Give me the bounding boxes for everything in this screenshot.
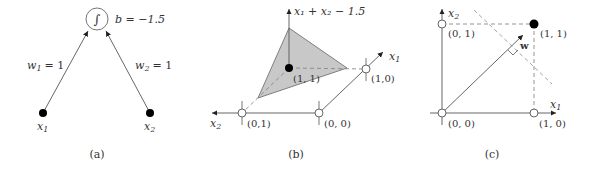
bias-label: b = −1.5 — [115, 13, 165, 26]
point-11-label: (1, 1) — [540, 28, 567, 39]
point-10-label: (1,0) — [371, 73, 395, 84]
edge-w2 — [106, 31, 150, 113]
point-00 — [315, 109, 323, 117]
caption-a: (a) — [89, 148, 104, 161]
panel-c: x1 x2 w (0, 1) (1, 1) (0, 0) (1, 0) (c) — [430, 7, 567, 161]
point-00-label: (0, 0) — [448, 118, 475, 129]
weight-w1-label: w1= 1 — [27, 59, 64, 73]
decision-boundary — [474, 10, 552, 84]
activation-plane — [258, 28, 347, 98]
input-node-x2 — [146, 109, 154, 117]
point-10 — [530, 109, 538, 117]
point-11-label: (1, 1) — [293, 73, 320, 84]
weight-vector-label: w — [519, 40, 529, 51]
panel-b: x₁ + x₂ − 1.5 x1 x2 (1, 1) (1,0) (0, 0) … — [210, 5, 400, 161]
figure-canvas: ∫ b = −1.5 w1= 1 w2= 1 x1 x2 (a) x₁ + x₂… — [0, 0, 597, 172]
point-00 — [438, 109, 446, 117]
x2-axis-label: x2 — [210, 117, 221, 131]
x1-axis-label: x1 — [389, 50, 400, 64]
point-00-label: (0, 0) — [324, 118, 351, 129]
integral-icon: ∫ — [94, 12, 101, 27]
x1-axis-label: x1 — [550, 98, 561, 112]
input-label-x2: x2 — [144, 120, 155, 134]
input-node-x1 — [39, 109, 47, 117]
x2-axis-label: x2 — [448, 7, 459, 21]
point-01 — [238, 109, 246, 117]
panel-a: ∫ b = −1.5 w1= 1 w2= 1 x1 x2 (a) — [27, 8, 172, 161]
point-01-label: (0,1) — [247, 118, 271, 129]
point-11 — [285, 64, 293, 72]
caption-b: (b) — [288, 148, 304, 161]
weight-w2-label: w2= 1 — [135, 59, 172, 73]
caption-c: (c) — [485, 148, 500, 161]
point-10 — [362, 65, 370, 73]
edge-w1 — [43, 31, 88, 113]
point-01-label: (0, 1) — [448, 28, 475, 39]
weight-vector — [442, 35, 523, 113]
input-label-x1: x1 — [37, 120, 48, 134]
point-10-label: (1, 0) — [539, 118, 566, 129]
point-11 — [530, 20, 539, 29]
point-01 — [438, 20, 446, 28]
z-axis-label: x₁ + x₂ − 1.5 — [294, 5, 365, 18]
